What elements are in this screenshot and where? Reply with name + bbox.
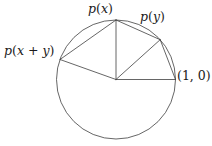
label-one-zero-second-coord: 0 — [198, 68, 206, 83]
radii-group — [60, 20, 176, 80]
chord-p-y-to-one-zero — [160, 40, 175, 80]
label-one-zero-comma: , — [190, 68, 198, 83]
label-p-of-x-plus-y-plus-sign: + — [24, 43, 42, 58]
label-p-of-y-function: p — [140, 9, 148, 24]
label-p-of-x-plus-y-first-arg: x — [17, 43, 24, 58]
radius-to-p-x-plus-y — [60, 60, 116, 80]
label-p-of-x-plus-y: p(x + y) — [4, 45, 54, 58]
label-p-of-x-plus-y-close-paren: ) — [49, 43, 54, 58]
label-p-of-y-argument: y — [153, 9, 160, 24]
label-one-zero-close-paren: ) — [206, 68, 211, 83]
label-p-of-x-close-paren: ) — [108, 1, 113, 16]
label-p-of-x-argument: x — [101, 1, 108, 16]
chord-p-x-plus-y-to-p-x — [60, 20, 116, 60]
label-one-zero-first-coord: 1 — [182, 68, 190, 83]
unit-circle-figure: p(x) p(y) p(x + y) (1, 0) — [0, 0, 212, 146]
label-p-of-x-plus-y-function: p — [4, 43, 12, 58]
radius-to-p-y — [116, 40, 160, 80]
label-p-of-x-function: p — [88, 1, 96, 16]
label-p-of-y: p(y) — [140, 11, 165, 24]
label-one-zero: (1, 0) — [177, 70, 211, 83]
label-p-of-y-close-paren: ) — [160, 9, 165, 24]
label-p-of-x: p(x) — [88, 3, 113, 16]
chords-group — [60, 20, 176, 80]
